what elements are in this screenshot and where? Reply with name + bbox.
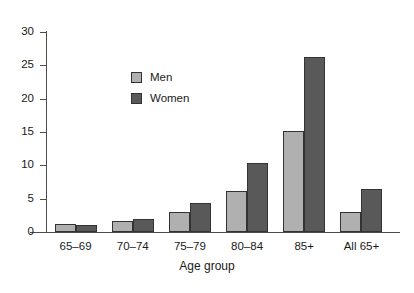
bar-men-5 <box>340 212 361 232</box>
x-axis-tick-label: 70–74 <box>104 240 161 252</box>
x-axis-line <box>30 232 400 233</box>
bar-men-1 <box>112 221 133 232</box>
y-axis-tick <box>40 165 47 166</box>
legend-label-women: Women <box>150 93 189 105</box>
x-axis-tick-label: 65–69 <box>47 240 104 252</box>
bar-women-3 <box>247 163 268 232</box>
y-axis-tick <box>40 199 47 200</box>
legend-swatch-men-icon <box>131 72 142 83</box>
bar-women-4 <box>304 57 325 232</box>
bar-group <box>55 32 97 232</box>
plot-area <box>47 32 390 232</box>
bar-men-4 <box>283 131 304 232</box>
legend-item-men: Men <box>131 69 189 86</box>
y-axis-tick <box>40 232 47 233</box>
bar-group <box>112 32 154 232</box>
y-axis-tick <box>40 99 47 100</box>
x-axis-tick-label: 75–79 <box>161 240 218 252</box>
y-axis-tick-label: 0 <box>8 226 34 238</box>
bar-women-1 <box>133 219 154 232</box>
x-axis-title: Age group <box>0 259 414 273</box>
y-axis-tick <box>40 32 47 33</box>
bar-men-2 <box>169 212 190 232</box>
x-axis-tick-label: 80–84 <box>219 240 276 252</box>
bar-men-3 <box>226 191 247 232</box>
bar-women-2 <box>190 203 211 232</box>
bar-men-0 <box>55 224 76 232</box>
y-axis-tick <box>40 65 47 66</box>
bar-women-5 <box>361 189 382 232</box>
bar-group <box>340 32 382 232</box>
legend-swatch-women-icon <box>131 93 142 104</box>
y-axis-tick <box>40 132 47 133</box>
bar-group <box>283 32 325 232</box>
y-axis-tick-label: 25 <box>8 59 34 71</box>
y-axis-tick-label: 20 <box>8 93 34 105</box>
x-axis-tick-label: 85+ <box>276 240 333 252</box>
y-axis-tick-label: 30 <box>8 26 34 38</box>
y-axis-tick-label: 15 <box>8 126 34 138</box>
legend-item-women: Women <box>131 90 189 107</box>
bar-group <box>226 32 268 232</box>
chart-legend: Men Women <box>131 69 189 111</box>
y-axis-tick-label: 5 <box>8 193 34 205</box>
bar-women-0 <box>76 225 97 232</box>
bar-group <box>169 32 211 232</box>
legend-label-men: Men <box>150 72 172 84</box>
bar-chart: 051015202530 65–6970–7475–7980–8485+All … <box>0 0 414 293</box>
x-axis-tick-label: All 65+ <box>333 240 390 252</box>
y-axis-tick-label: 10 <box>8 159 34 171</box>
